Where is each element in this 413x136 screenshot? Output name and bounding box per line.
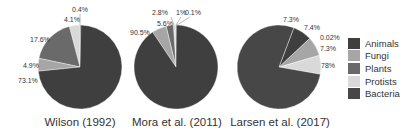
slice-label: 7.3% bbox=[283, 16, 299, 23]
slice-label: 7.3% bbox=[320, 45, 336, 52]
slice-label: 90.5% bbox=[130, 29, 150, 36]
legend-label: Animals bbox=[365, 38, 399, 49]
slice-label: 78% bbox=[321, 62, 335, 69]
legend-label: Fungi bbox=[365, 50, 389, 61]
legend-item-protists: Protists bbox=[348, 75, 400, 88]
legend-item-plants: Plants bbox=[348, 62, 400, 75]
slice-label: 7.4% bbox=[304, 24, 320, 31]
slice-label: 73.1% bbox=[18, 77, 38, 84]
slice-label: 2.8% bbox=[152, 9, 168, 16]
legend-label: Plants bbox=[365, 63, 391, 74]
slice-label: 4.1% bbox=[64, 16, 80, 23]
slice-label: 0.1% bbox=[185, 9, 201, 16]
legend-item-bacteria: Bacteria bbox=[348, 87, 400, 100]
slice-label: 17.6% bbox=[30, 36, 50, 43]
leader-line bbox=[177, 17, 190, 25]
legend-swatch bbox=[348, 50, 360, 61]
legend-swatch bbox=[348, 76, 360, 87]
legend-item-animals: Animals bbox=[348, 37, 400, 50]
slice-label: 5.6% bbox=[157, 20, 173, 27]
legend-label: Protists bbox=[365, 76, 397, 87]
slice-label: 4.9% bbox=[23, 62, 39, 69]
slice-label: 0.4% bbox=[72, 6, 88, 13]
legend-swatch bbox=[348, 38, 360, 49]
slice-label: 0.02% bbox=[320, 34, 340, 41]
legend-swatch bbox=[348, 88, 360, 99]
pie-slice-animals bbox=[134, 25, 218, 109]
legend-swatch bbox=[348, 63, 360, 74]
legend: Animals Fungi Plants Protists Bacteria bbox=[348, 37, 400, 100]
legend-label: Bacteria bbox=[365, 88, 400, 99]
chart-title-larsen: Larsen et al. (2017) bbox=[215, 116, 345, 128]
legend-item-fungi: Fungi bbox=[348, 50, 400, 63]
